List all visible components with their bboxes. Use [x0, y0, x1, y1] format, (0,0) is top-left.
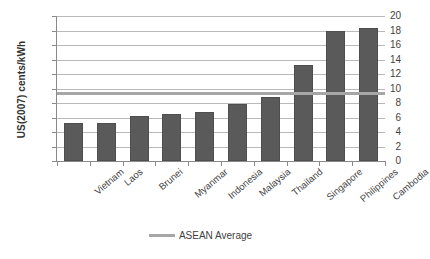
x-tick-label: Vietnam — [93, 166, 127, 197]
bar — [261, 97, 280, 161]
bar — [195, 112, 214, 161]
x-tick-mark — [90, 161, 91, 166]
legend-label-asean-average: ASEAN Average — [179, 230, 252, 241]
x-tick-label: Indonesia — [225, 166, 264, 201]
x-tick-label: Brunei — [156, 166, 184, 192]
x-tick-label: Malaysia — [257, 166, 293, 199]
x-tick-mark — [155, 161, 156, 166]
x-tick-mark — [385, 161, 386, 166]
plot-area — [57, 16, 385, 161]
bar — [97, 123, 116, 161]
bar — [228, 104, 247, 161]
gridline — [57, 16, 385, 17]
bar — [64, 123, 83, 161]
bar — [162, 114, 181, 161]
x-tick-mark — [319, 161, 320, 166]
x-tick-mark — [352, 161, 353, 166]
x-tick-mark — [123, 161, 124, 166]
x-tick-label: Thailand — [290, 166, 325, 198]
bar — [294, 65, 313, 161]
x-tick-mark — [287, 161, 288, 166]
legend: ASEAN Average — [0, 230, 401, 241]
x-tick-mark — [57, 161, 58, 166]
x-tick-mark — [254, 161, 255, 166]
x-tick-mark — [188, 161, 189, 166]
x-tick-label: Laos — [122, 166, 145, 188]
asean-average-line — [57, 92, 385, 95]
x-tick-label: Myanmar — [192, 166, 229, 200]
bar — [130, 116, 149, 161]
bar — [326, 31, 345, 162]
y-axis-title: US(2007) cents/kWh — [16, 20, 27, 160]
legend-line-swatch — [149, 234, 175, 237]
